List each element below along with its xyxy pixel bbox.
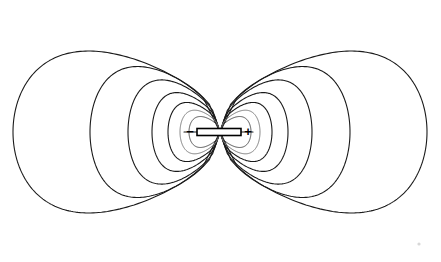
dipole-bar	[197, 129, 241, 136]
negative-charge-symbol: −	[186, 124, 194, 139]
dipole-field-diagram: − +	[0, 0, 441, 262]
dipole-figure: − +	[0, 0, 441, 262]
background-speck	[417, 242, 420, 245]
positive-charge-symbol: +	[244, 124, 252, 139]
